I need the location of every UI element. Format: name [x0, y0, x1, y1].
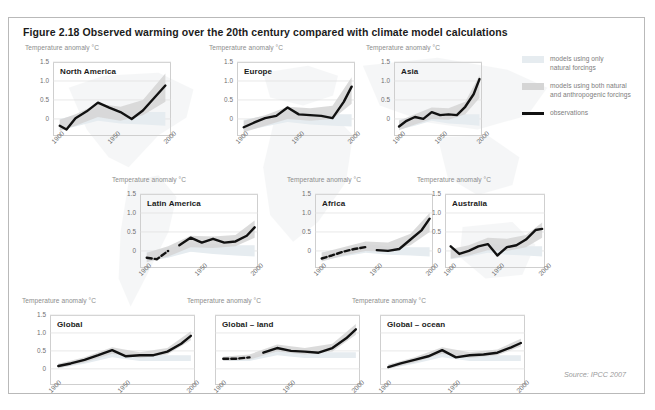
legend-label-natural-2: natural forcings [550, 63, 642, 72]
axis-caption: Temperature anomaly °C [187, 297, 261, 304]
panel-north-america: Temperature anomaly °CNorth America1.51.… [53, 62, 171, 136]
axis-caption: Temperature anomaly °C [112, 176, 186, 183]
panel-global-land: Temperature anomaly °CGlobal – land19001… [215, 315, 360, 385]
y-tick-label: 0 [118, 247, 136, 254]
legend-label-both-2: and anthropogenic forcings [550, 90, 642, 99]
axis-caption: Temperature anomaly °C [209, 44, 283, 51]
y-tick-label: 0 [423, 247, 441, 254]
axis-caption: Temperature anomaly °C [352, 297, 426, 304]
panel-asia: Temperature anomaly °CAsia1.51.00.501900… [394, 62, 482, 136]
y-tick-label: 1.5 [28, 311, 46, 318]
y-tick-label: 0.5 [28, 347, 46, 354]
y-tick-label: 1.5 [372, 58, 390, 65]
panel-title: Africa [322, 199, 345, 208]
axis-caption: Temperature anomaly °C [417, 176, 491, 183]
panel-title: Australia [452, 199, 487, 208]
panel-title: Europe [244, 67, 272, 76]
y-tick-label: 0.5 [372, 96, 390, 103]
y-tick-label: 1.0 [372, 77, 390, 84]
panel-africa: Temperature anomaly °CAfrica1.51.00.5019… [315, 194, 433, 268]
panel-latin-america: Temperature anomaly °CLatin America1.51.… [140, 194, 258, 268]
axis-caption: Temperature anomaly °C [287, 176, 361, 183]
axis-caption: Temperature anomaly °C [366, 44, 440, 51]
legend-item-observations: observations [522, 108, 642, 124]
source-note: Source: IPCC 2007 [564, 370, 626, 379]
panel-title: Global – land [222, 320, 274, 329]
y-tick-label: 0 [293, 247, 311, 254]
panel-title: Global – ocean [387, 320, 445, 329]
observation-line-swatch [522, 112, 544, 115]
y-tick-label: 0.5 [31, 96, 49, 103]
axis-caption: Temperature anomaly °C [22, 297, 96, 304]
legend: models using only natural forcings model… [522, 54, 642, 133]
y-tick-label: 1.0 [28, 329, 46, 336]
y-tick-label: 0 [28, 365, 46, 372]
panel-title: Latin America [147, 199, 201, 208]
y-tick-label: 1.5 [31, 58, 49, 65]
panel-europe: Temperature anomaly °CEurope1.51.00.5019… [237, 62, 355, 136]
y-tick-label: 1.0 [118, 209, 136, 216]
y-tick-label: 1.0 [31, 77, 49, 84]
y-tick-label: 1.0 [293, 209, 311, 216]
legend-label-observations: observations [550, 108, 642, 117]
y-tick-label: 0.5 [215, 96, 233, 103]
y-tick-label: 0 [31, 115, 49, 122]
y-tick-label: 1.5 [423, 190, 441, 197]
y-tick-label: 1.5 [118, 190, 136, 197]
legend-item-both: models using both natural and anthropoge… [522, 81, 642, 99]
panel-global-ocean: Temperature anomaly °CGlobal – ocean1900… [380, 315, 525, 385]
both-band-swatch [522, 83, 544, 90]
figure-title: Figure 2.18 Observed warming over the 20… [23, 26, 508, 38]
panel-global: Temperature anomaly °CGlobal1.51.00.5019… [50, 315, 195, 385]
y-tick-label: 0.5 [423, 228, 441, 235]
y-tick-label: 1.0 [215, 77, 233, 84]
y-tick-label: 0 [372, 115, 390, 122]
axis-caption: Temperature anomaly °C [25, 44, 99, 51]
y-tick-label: 1.0 [423, 209, 441, 216]
y-tick-label: 0.5 [118, 228, 136, 235]
y-tick-label: 0 [215, 115, 233, 122]
legend-label-natural-1: models using only [550, 54, 642, 63]
panel-title: North America [60, 67, 116, 76]
panel-australia: Temperature anomaly °CAustralia1.51.00.5… [445, 194, 545, 268]
natural-band-swatch [522, 56, 544, 63]
legend-label-both-1: models using both natural [550, 81, 642, 90]
panel-title: Global [57, 320, 83, 329]
y-tick-label: 1.5 [215, 58, 233, 65]
y-tick-label: 0.5 [293, 228, 311, 235]
legend-item-natural: models using only natural forcings [522, 54, 642, 72]
figure-frame: Figure 2.18 Observed warming over the 20… [8, 17, 645, 394]
y-tick-label: 1.5 [293, 190, 311, 197]
panel-title: Asia [401, 67, 418, 76]
